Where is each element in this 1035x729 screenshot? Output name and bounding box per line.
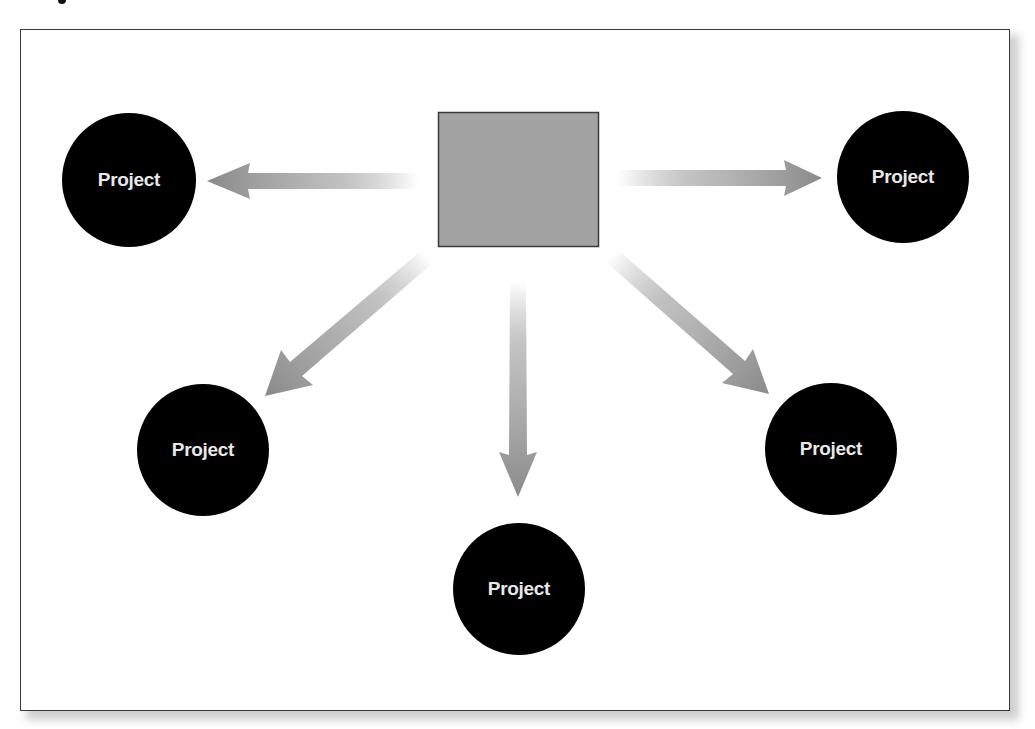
node-label: Project	[800, 438, 863, 459]
project-node-top-right: Project	[837, 111, 969, 243]
project-node-bottom-right: Project	[765, 383, 897, 515]
project-node-top-left: Project	[62, 113, 196, 247]
project-node-bottom-left: Project	[137, 384, 269, 516]
arrow-to-top-left	[207, 163, 418, 199]
hub-spoke-diagram: Project Project Project Project Project	[0, 0, 1035, 729]
arrow-to-bottom-center	[499, 282, 537, 497]
project-node-bottom-center: Project	[453, 523, 585, 655]
hub-square	[439, 113, 599, 247]
node-label: Project	[872, 166, 935, 187]
node-label: Project	[98, 169, 161, 190]
node-label: Project	[172, 439, 235, 460]
arrow-to-bottom-right	[606, 250, 769, 394]
node-label: Project	[488, 578, 551, 599]
arrow-to-top-right	[618, 160, 822, 196]
arrow-to-bottom-left	[265, 250, 434, 396]
